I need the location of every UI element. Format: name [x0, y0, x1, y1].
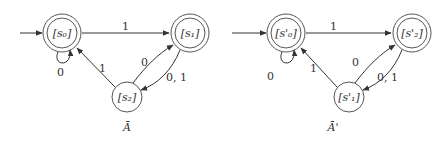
state-s2: [s₂]	[112, 82, 142, 112]
state-label: [s'₂]	[401, 27, 423, 40]
edge-s2-s0	[77, 48, 115, 87]
edge-s2p-s1p	[363, 50, 402, 90]
state-s1: [s₁]	[171, 14, 209, 52]
state-label: [s'₀]	[275, 27, 297, 40]
state-s0: [s₀]	[43, 14, 81, 52]
edge-label: 0, 1	[377, 71, 398, 84]
edge-label: 0	[267, 70, 274, 83]
automata-diagram: [s₀] [s₁] [s₂] 0 1 0, 1 0 1 Ā	[0, 0, 442, 141]
automaton-a-prime-bar: [s'₀] [s'₂] [s'₁] 0 1 0, 1 0 1 Ā'	[232, 14, 431, 134]
state-label: [s₁]	[181, 27, 200, 40]
state-label: [s₀]	[53, 27, 72, 40]
edge-s1p-s0p	[301, 48, 337, 87]
state-s0-prime: [s'₀]	[267, 14, 305, 52]
edge-label: 0	[57, 66, 64, 79]
automaton-a-bar: [s₀] [s₁] [s₂] 0 1 0, 1 0 1 Ā	[20, 14, 209, 134]
edge-label: 1	[122, 20, 129, 33]
state-label: [s'₁]	[338, 91, 360, 104]
edge-label: 0	[141, 56, 148, 69]
automaton-caption: Ā	[122, 121, 131, 134]
edge-label: 1	[310, 62, 317, 75]
edge-label: 0	[352, 56, 359, 69]
edge-label: 1	[330, 20, 337, 33]
state-label: [s₂]	[118, 91, 137, 104]
state-s1-prime: [s'₁]	[334, 82, 364, 112]
automaton-caption: Ā'	[327, 121, 339, 134]
state-s2-prime: [s'₂]	[393, 14, 431, 52]
edge-label: 1	[99, 62, 106, 75]
edge-label: 0, 1	[166, 71, 187, 84]
